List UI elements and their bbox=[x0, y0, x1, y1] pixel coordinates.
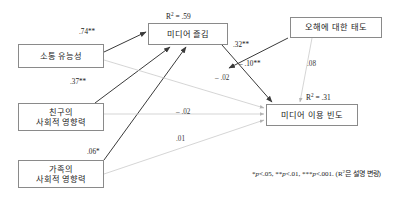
footnote-run: 은 설명 변량) bbox=[345, 170, 381, 178]
path-diagram-figure: 소통 유능성 친구의 사회적 영향력 가족의 사회적 영향력 미디어 즐김 오해… bbox=[0, 0, 400, 203]
coefficient-comm-to-use: – .02 bbox=[215, 74, 229, 82]
node-label-line2: 사회적 영향력 bbox=[36, 174, 87, 184]
coefficient-friend-to-enjoyment: .37** bbox=[70, 78, 86, 86]
node-friend-social-influence: 친구의 사회적 영향력 bbox=[18, 103, 104, 131]
node-family-social-influence: 가족의 사회적 영향력 bbox=[18, 160, 104, 188]
r2-exponent: 2 bbox=[171, 11, 174, 17]
r2-exponent: 2 bbox=[311, 92, 314, 98]
footnote-run: <.001. (R bbox=[316, 170, 343, 178]
r2-label-media-use-frequency: R2 = .31 bbox=[306, 92, 331, 102]
footnote-run: <.05, ** bbox=[259, 170, 282, 178]
node-media-enjoyment: 미디어 즐김 bbox=[148, 23, 228, 45]
coefficient-friend-to-use: – .02 bbox=[176, 108, 190, 116]
path-family-to-use bbox=[104, 120, 264, 174]
node-label: 소통 유능성 bbox=[40, 51, 83, 61]
significance-footnote: *p<.05, **p<.01, ***p<.001. (R2은 설명 변량) bbox=[252, 168, 381, 178]
node-label-line2: 사회적 영향력 bbox=[36, 117, 87, 127]
r2-value: = .59 bbox=[175, 12, 190, 21]
node-label: 오해에 대한 태도 bbox=[305, 22, 366, 32]
path-enjoyment-to-use bbox=[222, 45, 272, 102]
coefficient-attitude-to-use: .08 bbox=[307, 60, 316, 68]
node-label: 미디어 즐김 bbox=[167, 29, 210, 39]
node-label: 미디어 이용 빈도 bbox=[281, 110, 342, 120]
node-label-line1: 친구의 bbox=[49, 107, 73, 117]
r2-value: = .31 bbox=[315, 93, 330, 102]
node-attitude-toward-misunderstanding: 오해에 대한 태도 bbox=[290, 17, 382, 38]
footnote-run: <.01, *** bbox=[286, 170, 313, 178]
path-friend-to-enjoyment bbox=[95, 47, 170, 103]
coefficient-family-to-use: .01 bbox=[176, 135, 185, 143]
coefficient-family-to-enjoyment: .06* bbox=[87, 148, 100, 156]
path-comm-to-enjoyment bbox=[104, 32, 146, 52]
node-communication-competence: 소통 유능성 bbox=[18, 44, 104, 68]
coefficient-enjoyment-to-use: .32** bbox=[233, 41, 249, 49]
coefficient-comm-to-enjoyment: .74** bbox=[79, 28, 95, 36]
node-label-line1: 가족의 bbox=[49, 164, 73, 174]
coefficient-attitude-to-enjoyment: – .10** bbox=[239, 60, 261, 68]
node-media-use-frequency: 미디어 이용 빈도 bbox=[266, 104, 358, 126]
r2-label-media-enjoyment: R2 = .59 bbox=[166, 11, 191, 21]
